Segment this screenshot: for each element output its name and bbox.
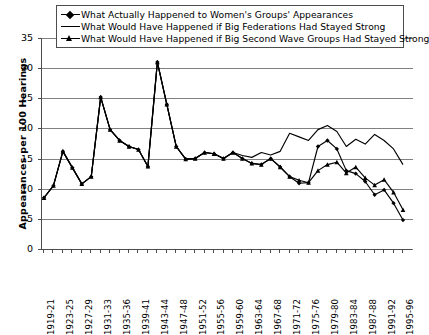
x-axis-tick xyxy=(270,249,271,253)
x-axis-tick-label: 1939-41 xyxy=(141,299,151,335)
x-axis-tick xyxy=(383,249,384,253)
x-axis-tick xyxy=(43,249,44,253)
x-axis-tick xyxy=(81,249,82,253)
line-marker-icon xyxy=(61,21,80,32)
x-axis-tick-label: 1923-25 xyxy=(65,299,75,335)
x-axis-tick-label: 1987-88 xyxy=(368,299,378,335)
data-point-marker xyxy=(401,218,405,222)
x-axis-tick xyxy=(137,249,138,253)
x-axis-tick xyxy=(223,249,224,253)
x-axis-tick xyxy=(308,249,309,253)
legend-item: What Would Have Happened if Big Federati… xyxy=(61,21,398,33)
y-axis-tick-label: 15 xyxy=(5,154,33,164)
x-axis-tick-label: 1995-96 xyxy=(405,299,415,335)
x-axis-tick xyxy=(100,249,101,253)
x-axis-tick xyxy=(109,249,110,253)
x-axis-tick-label: 1955-56 xyxy=(216,299,226,335)
x-axis-tick xyxy=(204,249,205,253)
x-axis-tick-label: 1959-60 xyxy=(235,299,245,335)
x-axis-tick-label: 1947-48 xyxy=(179,299,189,335)
x-axis-tick xyxy=(317,249,318,253)
legend-label: What Actually Happened to Women's Groups… xyxy=(80,9,353,20)
x-axis-tick xyxy=(156,249,157,253)
legend-item: What Actually Happened to Women's Groups… xyxy=(61,9,398,21)
x-axis-tick xyxy=(260,249,261,253)
x-axis-tick xyxy=(336,249,337,253)
series-line xyxy=(44,62,403,220)
x-axis-tick-label: 1927-29 xyxy=(84,299,94,335)
x-axis-tick xyxy=(298,249,299,253)
x-axis-tick xyxy=(213,249,214,253)
x-axis-tick xyxy=(62,249,63,253)
series-line xyxy=(44,62,403,198)
x-axis xyxy=(41,249,412,250)
x-axis-tick xyxy=(393,249,394,253)
y-axis-tick-label: 25 xyxy=(5,93,33,103)
diamond-marker-icon xyxy=(61,9,80,20)
x-axis-tick-label: 1971-72 xyxy=(292,299,302,335)
x-axis-tick xyxy=(147,249,148,253)
x-axis-tick-label: 1935-36 xyxy=(122,299,132,335)
y-axis-tick-label: 20 xyxy=(5,123,33,133)
x-axis-tick-label: 1967-68 xyxy=(273,299,283,335)
x-axis-tick-label: 1919-21 xyxy=(46,299,56,335)
x-axis-tick xyxy=(364,249,365,253)
x-axis-tick-label: 1983-84 xyxy=(349,299,359,335)
x-axis-tick xyxy=(279,249,280,253)
data-point-marker xyxy=(353,165,358,170)
x-axis-tick xyxy=(90,249,91,253)
x-axis-tick xyxy=(355,249,356,253)
y-axis-tick-label: 35 xyxy=(5,33,33,43)
plot-area xyxy=(41,38,412,249)
y-axis-tick-label: 30 xyxy=(5,63,33,73)
triangle-marker-icon xyxy=(61,33,80,44)
x-axis-tick xyxy=(289,249,290,253)
series-line xyxy=(44,62,403,210)
x-axis-tick xyxy=(241,249,242,253)
x-axis-tick-label: 1963-64 xyxy=(254,299,264,335)
legend-label: What Would Have Happened if Big Federati… xyxy=(80,21,385,32)
data-point-marker xyxy=(382,177,387,182)
x-axis-tick xyxy=(128,249,129,253)
legend-label: What Would Have Happened if Big Second W… xyxy=(80,33,429,44)
x-axis-tick xyxy=(345,249,346,253)
chart-legend: What Actually Happened to Women's Groups… xyxy=(56,5,404,48)
data-point-marker xyxy=(401,207,406,212)
x-axis-tick-label: 1951-52 xyxy=(198,299,208,335)
x-axis-tick xyxy=(119,249,120,253)
x-axis-tick xyxy=(251,249,252,253)
x-axis-tick xyxy=(166,249,167,253)
y-axis-tick-label: 10 xyxy=(5,184,33,194)
data-lines xyxy=(42,38,413,249)
x-axis-tick xyxy=(232,249,233,253)
x-axis-tick xyxy=(185,249,186,253)
x-axis-tick-label: 1991-92 xyxy=(387,299,397,335)
x-axis-tick-label: 1931-33 xyxy=(103,299,113,335)
x-axis-tick xyxy=(175,249,176,253)
x-axis-tick xyxy=(402,249,403,253)
x-axis-tick-label: 1975-76 xyxy=(311,299,321,335)
x-axis-tick-label: 1979-80 xyxy=(330,299,340,335)
legend-item: What Would Have Happened if Big Second W… xyxy=(61,33,398,45)
x-axis-tick xyxy=(326,249,327,253)
x-axis-tick xyxy=(71,249,72,253)
x-axis-tick xyxy=(194,249,195,253)
y-axis-tick-label: 0 xyxy=(5,244,33,254)
x-axis-tick-label: 1943-44 xyxy=(160,299,170,335)
x-axis-tick xyxy=(52,249,53,253)
x-axis-tick xyxy=(374,249,375,253)
y-axis-tick-label: 5 xyxy=(5,214,33,224)
